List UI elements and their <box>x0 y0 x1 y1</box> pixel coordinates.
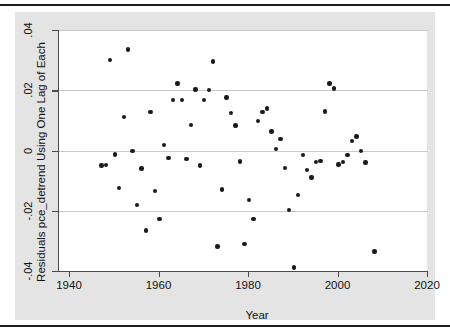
x-axis-tick-label: 1980 <box>235 279 261 291</box>
scatter-point <box>372 249 376 253</box>
gridline-y <box>59 30 428 31</box>
scatter-point <box>233 123 237 127</box>
scatter-point <box>265 106 269 110</box>
figure-page: Residuals pce_detrend Using One Lag of E… <box>0 0 450 335</box>
scatter-point <box>148 110 152 114</box>
x-axis-tick-label: 1960 <box>146 279 172 291</box>
plot-area <box>58 30 427 271</box>
y-axis-tick <box>52 271 58 272</box>
scatter-point <box>157 217 161 221</box>
y-axis-tick <box>52 151 58 152</box>
y-axis-tick-label: .02 <box>22 83 34 98</box>
scatter-point <box>247 198 251 202</box>
x-axis-tick-label: 2000 <box>325 279 351 291</box>
scatter-point <box>104 163 108 167</box>
scatter-point <box>171 98 175 102</box>
scatter-point <box>99 163 103 167</box>
scatter-point <box>139 166 143 170</box>
scatter-point <box>224 95 228 99</box>
scatter-point <box>341 160 345 164</box>
scatter-point <box>327 81 331 85</box>
y-axis-tick-label: .04 <box>22 22 34 37</box>
y-axis-tick <box>52 90 58 91</box>
x-axis-title: Year <box>245 309 268 321</box>
scatter-point <box>345 153 349 157</box>
x-axis-tick <box>69 271 70 277</box>
scatter-point <box>318 159 322 163</box>
scatter-point <box>211 59 215 63</box>
scatter-point <box>242 242 246 246</box>
y-axis-tick-label: -.04 <box>22 262 34 281</box>
x-axis-line <box>58 271 427 272</box>
scatter-point <box>113 152 117 156</box>
scatter-point <box>162 143 166 147</box>
scatter-point <box>278 137 282 141</box>
x-axis-tick-label: 2020 <box>414 279 440 291</box>
scatter-point <box>130 149 134 153</box>
x-axis-tick <box>338 271 339 277</box>
scatter-point <box>296 193 300 197</box>
scatter-point <box>117 186 121 190</box>
scatter-point <box>359 149 363 153</box>
scatter-point <box>220 187 224 191</box>
scatter-point <box>153 189 157 193</box>
x-axis-tick <box>159 271 160 277</box>
y-axis-tick <box>52 30 58 31</box>
gridline-y <box>59 90 428 91</box>
scatter-point <box>126 47 130 51</box>
top-divider-rule <box>0 4 450 6</box>
scatter-point <box>332 86 336 90</box>
scatter-point <box>256 119 260 123</box>
scatter-point <box>301 153 305 157</box>
x-axis-tick-label: 1940 <box>56 279 82 291</box>
scatter-point <box>260 110 264 114</box>
y-axis-tick-label: 0 <box>22 147 34 153</box>
scatter-point <box>202 98 206 102</box>
gridline-y <box>59 211 428 212</box>
scatter-point <box>269 129 273 133</box>
scatter-point <box>238 159 242 163</box>
scatter-point <box>354 134 358 138</box>
scatter-point <box>135 203 139 207</box>
scatter-point <box>305 168 309 172</box>
x-axis-tick <box>427 271 428 277</box>
scatter-point <box>175 81 179 85</box>
y-axis-title: Residuals pce_detrend Using One Lag of E… <box>35 42 47 282</box>
scatter-point <box>251 217 255 221</box>
scatter-point <box>189 123 193 127</box>
scatter-point <box>363 160 367 164</box>
scatter-point <box>180 98 184 102</box>
scatter-point <box>193 87 197 91</box>
y-axis-tick <box>52 211 58 212</box>
scatter-point <box>166 156 170 160</box>
scatter-point <box>207 88 211 92</box>
scatter-point <box>323 109 327 113</box>
y-axis-tick-label: -.02 <box>22 201 34 220</box>
scatter-point <box>292 265 296 269</box>
scatter-point <box>198 163 202 167</box>
scatter-point <box>309 175 313 179</box>
scatter-point <box>184 157 188 161</box>
bottom-divider-rule <box>0 325 450 327</box>
scatter-point <box>350 139 354 143</box>
scatter-point <box>122 115 126 119</box>
scatter-point <box>108 58 112 62</box>
scatter-point <box>144 228 148 232</box>
x-axis-tick <box>248 271 249 277</box>
scatter-point <box>215 244 219 248</box>
scatter-point <box>336 162 340 166</box>
scatter-point <box>283 166 287 170</box>
scatter-point <box>229 111 233 115</box>
